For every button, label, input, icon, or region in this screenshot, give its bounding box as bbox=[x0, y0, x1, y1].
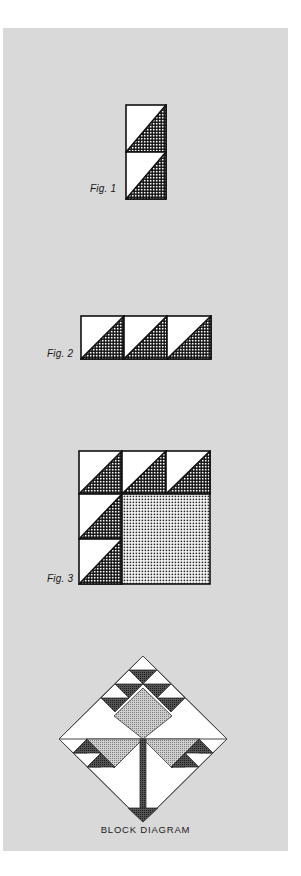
block-diagram-caption: BLOCK DIAGRAM bbox=[0, 824, 291, 835]
fig3-diagram bbox=[78, 450, 211, 585]
fig2-diagram bbox=[80, 315, 212, 360]
fig3-label: Fig. 3 bbox=[47, 573, 73, 584]
fig1-diagram bbox=[125, 104, 167, 200]
fig2-label: Fig. 2 bbox=[47, 348, 73, 359]
block-diagram bbox=[56, 654, 230, 826]
fig1-label: Fig. 1 bbox=[90, 183, 116, 194]
